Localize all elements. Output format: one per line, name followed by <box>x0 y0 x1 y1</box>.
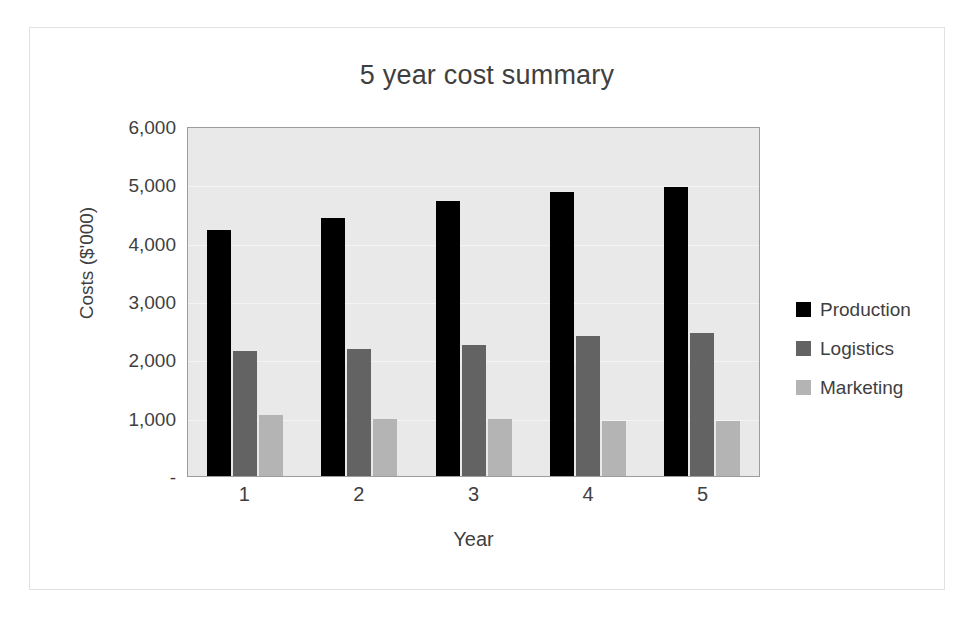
y-axis-tick-label: 6,000 <box>88 118 176 137</box>
legend-item-logistics: Logistics <box>796 329 911 368</box>
x-axis-tick-label: 4 <box>531 483 646 506</box>
x-axis-tick-label: 2 <box>302 483 417 506</box>
x-axis-tick-label: 1 <box>187 483 302 506</box>
legend-item-production: Production <box>796 290 911 329</box>
bar-logistics-year-4 <box>576 336 600 476</box>
bar-group <box>188 128 302 476</box>
y-axis-tick-label: 2,000 <box>88 351 176 370</box>
legend-swatch-icon <box>796 341 811 356</box>
legend-swatch-icon <box>796 302 811 317</box>
bar-marketing-year-2 <box>373 419 397 476</box>
bar-group <box>416 128 530 476</box>
chart-frame: 5 year cost summary Costs ($'000) 6,0005… <box>29 27 945 590</box>
bar-production-year-3 <box>436 201 460 476</box>
y-axis-tick-labels: 6,0005,0004,0003,0002,0001,000- <box>88 124 176 474</box>
bar-production-year-2 <box>321 218 345 476</box>
x-axis-tick-labels: 12345 <box>187 483 760 506</box>
bar-group <box>302 128 416 476</box>
bar-logistics-year-3 <box>462 345 486 476</box>
legend-swatch-icon <box>796 380 811 395</box>
legend-label: Logistics <box>820 338 894 360</box>
bar-production-year-1 <box>207 230 231 476</box>
bar-logistics-year-1 <box>233 351 257 476</box>
y-axis-tick-label: 5,000 <box>88 176 176 195</box>
legend: ProductionLogisticsMarketing <box>796 290 911 407</box>
bar-production-year-4 <box>550 192 574 476</box>
bar-marketing-year-4 <box>602 421 626 476</box>
y-axis-tick-label: 1,000 <box>88 409 176 428</box>
bar-production-year-5 <box>664 187 688 476</box>
bar-group <box>531 128 645 476</box>
bars-layer <box>188 128 759 476</box>
bar-marketing-year-5 <box>716 421 740 476</box>
plot-area <box>187 127 760 477</box>
x-axis-tick-label: 3 <box>416 483 531 506</box>
y-axis-tick-label: 4,000 <box>88 234 176 253</box>
x-axis-tick-label: 5 <box>645 483 760 506</box>
x-axis-title: Year <box>187 528 760 551</box>
y-axis-tick-label: - <box>88 468 176 487</box>
legend-item-marketing: Marketing <box>796 368 911 407</box>
legend-label: Marketing <box>820 377 903 399</box>
y-axis-tick-label: 3,000 <box>88 293 176 312</box>
legend-label: Production <box>820 299 911 321</box>
bar-logistics-year-2 <box>347 349 371 476</box>
bar-marketing-year-1 <box>259 415 283 476</box>
bar-marketing-year-3 <box>488 419 512 476</box>
bar-logistics-year-5 <box>690 333 714 477</box>
bar-group <box>645 128 759 476</box>
chart-title: 5 year cost summary <box>30 60 944 91</box>
